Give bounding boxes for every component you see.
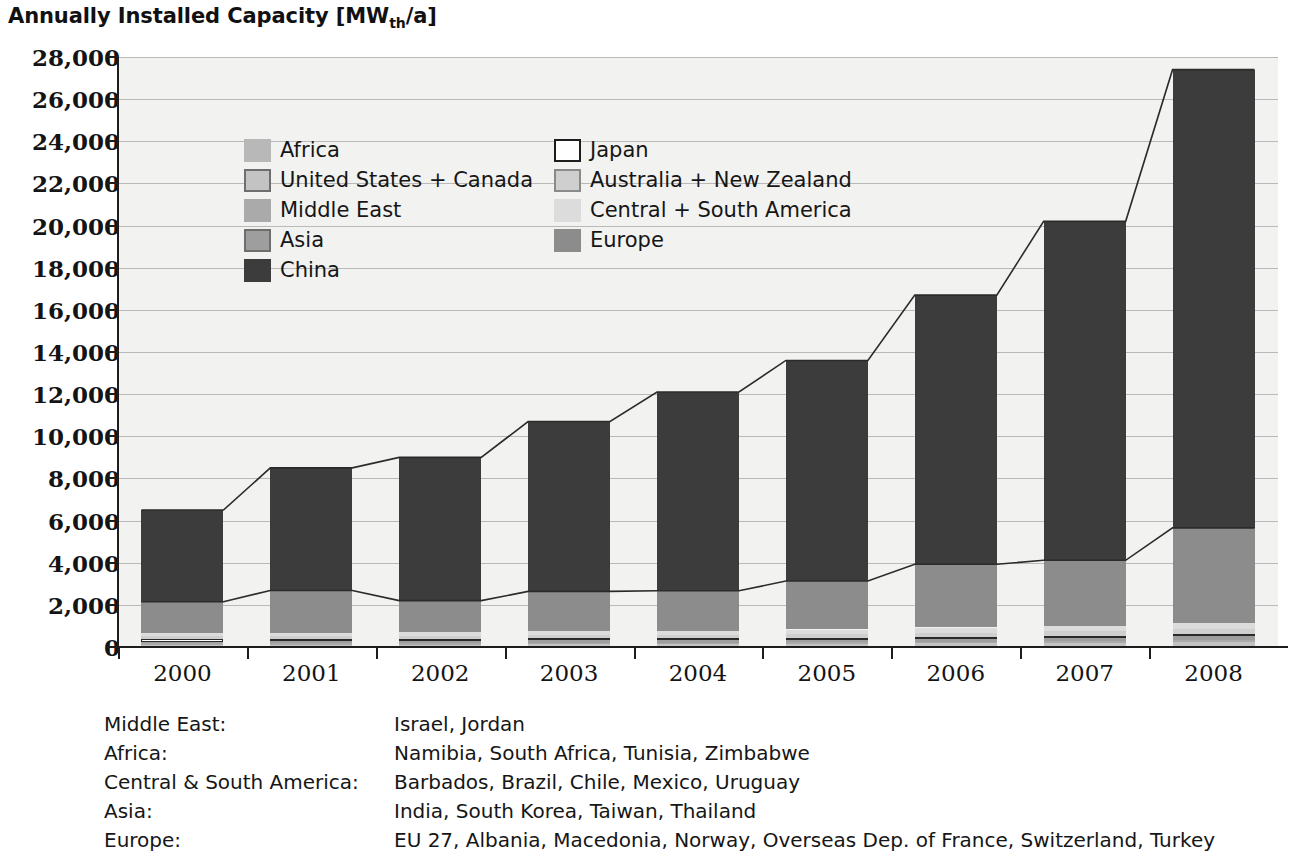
bar-segment-asia[interactable] bbox=[657, 640, 739, 642]
bar-stack-2000[interactable] bbox=[141, 57, 223, 647]
y-axis-line bbox=[117, 57, 119, 648]
legend-item-united-states-canada[interactable]: United States + Canada bbox=[244, 165, 533, 195]
x-axis-tick-mark bbox=[1149, 648, 1151, 659]
bar-segment-middle-east[interactable] bbox=[657, 643, 739, 645]
bar-segment-japan[interactable] bbox=[657, 638, 739, 640]
bar-segment-middle-east[interactable] bbox=[270, 643, 352, 645]
legend-item-australia-new-zealand[interactable]: Australia + New Zealand bbox=[554, 165, 852, 195]
x-axis-tick-label: 2001 bbox=[246, 660, 376, 686]
bar-segment-central-south-america[interactable] bbox=[141, 633, 223, 636]
y-axis-tick-label: 6,000 bbox=[0, 507, 120, 534]
bar-segment-asia[interactable] bbox=[528, 640, 610, 642]
legend-item-africa[interactable]: Africa bbox=[244, 135, 533, 165]
bar-segment-europe[interactable] bbox=[915, 564, 997, 627]
bar-stack-2006[interactable] bbox=[915, 57, 997, 647]
bar-segment-middle-east[interactable] bbox=[141, 643, 223, 644]
bar-segment-china[interactable] bbox=[915, 295, 997, 564]
bar-segment-europe[interactable] bbox=[657, 591, 739, 631]
bar-segment-central-south-america[interactable] bbox=[915, 628, 997, 633]
bar-segment-japan[interactable] bbox=[270, 639, 352, 641]
bar-segment-china[interactable] bbox=[1173, 70, 1255, 528]
x-axis-tick-mark bbox=[376, 648, 378, 659]
bar-segment-asia[interactable] bbox=[786, 640, 868, 643]
bar-segment-central-south-america[interactable] bbox=[657, 631, 739, 635]
bar-segment-europe[interactable] bbox=[1173, 528, 1255, 623]
bar-segment-china[interactable] bbox=[270, 468, 352, 591]
footnote-key: Central & South America: bbox=[104, 770, 394, 794]
legend-item-japan[interactable]: Japan bbox=[554, 135, 852, 165]
bar-segment-central-south-america[interactable] bbox=[1044, 626, 1126, 632]
bar-segment-europe[interactable] bbox=[141, 602, 223, 634]
bar-segment-australia-new-zealand[interactable] bbox=[1173, 629, 1255, 634]
bar-segment-china[interactable] bbox=[657, 392, 739, 591]
footnotes-table: Middle East:Israel, JordanAfrica:Namibia… bbox=[104, 712, 1316, 857]
bar-stack-2008[interactable] bbox=[1173, 57, 1255, 647]
legend-item-europe[interactable]: Europe bbox=[554, 225, 852, 255]
bar-segment-central-south-america[interactable] bbox=[1173, 623, 1255, 630]
bar-segment-china[interactable] bbox=[786, 360, 868, 581]
x-axis-tick-label: 2006 bbox=[891, 660, 1021, 686]
chart-title-main: Annually Installed Capacity [MW bbox=[8, 4, 389, 28]
bar-segment-australia-new-zealand[interactable] bbox=[528, 635, 610, 638]
footnote-row: Europe:EU 27, Albania, Macedonia, Norway… bbox=[104, 828, 1316, 857]
legend-swatch-icon bbox=[244, 169, 271, 192]
legend-label: Middle East bbox=[280, 200, 401, 221]
bar-segment-central-south-america[interactable] bbox=[528, 631, 610, 635]
legend-item-china[interactable]: China bbox=[244, 255, 533, 285]
bar-segment-australia-new-zealand[interactable] bbox=[141, 636, 223, 639]
bar-stack-2007[interactable] bbox=[1044, 57, 1126, 647]
y-axis-tick-label: 12,000 bbox=[0, 381, 120, 408]
bar-segment-middle-east[interactable] bbox=[1173, 640, 1255, 642]
y-axis-tick-label: 4,000 bbox=[0, 549, 120, 576]
bar-segment-japan[interactable] bbox=[141, 639, 223, 642]
bar-segment-asia[interactable] bbox=[1173, 636, 1255, 640]
legend-swatch-icon bbox=[244, 139, 271, 162]
legend-column-right: JapanAustralia + New ZealandCentral + So… bbox=[554, 135, 852, 255]
bar-segment-australia-new-zealand[interactable] bbox=[786, 634, 868, 638]
x-axis-tick-mark bbox=[891, 648, 893, 659]
bar-segment-europe[interactable] bbox=[1044, 560, 1126, 625]
bar-segment-middle-east[interactable] bbox=[528, 643, 610, 645]
bar-segment-australia-new-zealand[interactable] bbox=[270, 636, 352, 639]
bar-segment-europe[interactable] bbox=[786, 581, 868, 629]
bar-segment-china[interactable] bbox=[141, 510, 223, 602]
bar-segment-australia-new-zealand[interactable] bbox=[399, 636, 481, 639]
bar-segment-central-south-america[interactable] bbox=[786, 630, 868, 634]
bar-segment-japan[interactable] bbox=[786, 638, 868, 640]
bar-segment-asia[interactable] bbox=[141, 642, 223, 644]
bar-segment-australia-new-zealand[interactable] bbox=[657, 635, 739, 638]
bar-segment-japan[interactable] bbox=[1173, 634, 1255, 636]
bar-segment-asia[interactable] bbox=[1044, 638, 1126, 641]
legend-item-asia[interactable]: Asia bbox=[244, 225, 533, 255]
bar-segment-europe[interactable] bbox=[399, 601, 481, 633]
chart-legend: AfricaUnited States + CanadaMiddle EastA… bbox=[244, 135, 854, 290]
bar-segment-asia[interactable] bbox=[399, 641, 481, 643]
footnote-row: Asia:India, South Korea, Taiwan, Thailan… bbox=[104, 799, 1316, 828]
bar-segment-middle-east[interactable] bbox=[1044, 641, 1126, 643]
bar-segment-europe[interactable] bbox=[528, 591, 610, 631]
bar-segment-asia[interactable] bbox=[270, 641, 352, 643]
legend-item-central-south-america[interactable]: Central + South America bbox=[554, 195, 852, 225]
bar-segment-australia-new-zealand[interactable] bbox=[1044, 631, 1126, 636]
bar-segment-japan[interactable] bbox=[528, 638, 610, 640]
bar-segment-japan[interactable] bbox=[915, 637, 997, 639]
bar-segment-japan[interactable] bbox=[1044, 636, 1126, 638]
bar-segment-china[interactable] bbox=[399, 457, 481, 600]
footnote-key: Asia: bbox=[104, 799, 394, 823]
bar-segment-central-south-america[interactable] bbox=[270, 633, 352, 636]
bar-segment-europe[interactable] bbox=[270, 591, 352, 633]
y-axis-tick-label: 2,000 bbox=[0, 591, 120, 618]
bar-segment-australia-new-zealand[interactable] bbox=[915, 633, 997, 637]
bar-segment-middle-east[interactable] bbox=[786, 642, 868, 644]
legend-item-middle-east[interactable]: Middle East bbox=[244, 195, 533, 225]
bar-segment-asia[interactable] bbox=[915, 639, 997, 642]
bar-segment-china[interactable] bbox=[528, 422, 610, 592]
y-axis-tick-label: 26,000 bbox=[0, 86, 120, 113]
bar-segment-china[interactable] bbox=[1044, 221, 1126, 560]
bar-segment-middle-east[interactable] bbox=[915, 642, 997, 644]
bar-segment-japan[interactable] bbox=[399, 639, 481, 641]
y-axis-tick-label: 10,000 bbox=[0, 423, 120, 450]
bar-segment-middle-east[interactable] bbox=[399, 643, 481, 645]
bar-segment-central-south-america[interactable] bbox=[399, 632, 481, 635]
legend-swatch-icon bbox=[554, 139, 581, 162]
